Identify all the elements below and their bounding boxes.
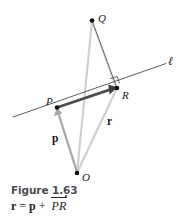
vector-r-line: [77, 89, 117, 173]
point-dot-o: [75, 171, 80, 176]
point-dot-r: [115, 86, 120, 91]
formula-plus: +: [36, 199, 49, 214]
vector-arrowhead-icon: [65, 195, 68, 197]
point-dot-p: [55, 105, 60, 110]
formula-equals: =: [16, 199, 29, 214]
figure-1-63: Q P R O ℓ p r Figure 1.63 r = p + PR: [0, 0, 183, 222]
caption-formula: r = p + PR: [11, 199, 176, 214]
point-label-r: R: [122, 90, 129, 101]
vector-label-p: p: [52, 133, 58, 145]
formula-term-pr-vector: PR: [51, 199, 68, 214]
figure-caption: Figure 1.63 r = p + PR: [11, 184, 176, 214]
caption-title: Figure 1.63: [11, 184, 176, 197]
vector-label-r: r: [107, 116, 112, 128]
point-label-o: O: [82, 172, 90, 183]
formula-term-p: p: [29, 199, 36, 214]
point-label-p: P: [46, 96, 53, 107]
point-label-q: Q: [98, 13, 106, 24]
vector-overbar: [51, 197, 68, 198]
point-dot-q: [90, 18, 95, 23]
line-ell: [13, 64, 166, 118]
line-label-ell: ℓ: [168, 55, 173, 67]
formula-term-pr: PR: [52, 199, 67, 213]
